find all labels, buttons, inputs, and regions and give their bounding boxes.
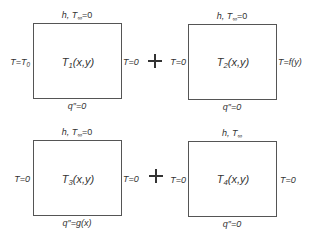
right-bc-text: T=f(y) — [278, 57, 302, 67]
left-bc-sub: 0 — [26, 61, 30, 68]
plus-operator-icon — [149, 169, 163, 183]
solution-args: (x,y) — [73, 56, 94, 68]
left-bc-prefix: T=T — [10, 57, 26, 67]
panel-t4-right-bc: T=0 — [280, 175, 296, 185]
panel-t3-bottom-bc: q″=g(x) — [63, 218, 92, 228]
panel-t3-right-bc: T=0 — [123, 174, 139, 184]
panel-t3-top-bc: h, T∞=0 — [62, 127, 92, 137]
right-bc-text: T=0 — [280, 175, 296, 185]
panel-t1-left-bc: T=T0 — [10, 57, 30, 67]
panel-t1-solution-label: T1(x,y) — [62, 56, 94, 68]
panel-t2-right-bc: T=f(y) — [278, 57, 302, 67]
top-bc-prefix: h, T — [62, 127, 78, 137]
panel-t3-solution-label: T3(x,y) — [62, 173, 94, 185]
panel-t2-bottom-bc: q″=0 — [223, 102, 241, 112]
right-bc-text: T=0 — [123, 57, 139, 67]
panel-t3-left-bc: T=0 — [14, 174, 30, 184]
top-bc-suffix: =0 — [82, 127, 92, 137]
bottom-bc-text: q″=g(x) — [63, 218, 92, 228]
solution-base: T — [62, 56, 69, 68]
panel-t2-left-bc: T=0 — [170, 57, 186, 67]
bottom-bc-text: q″=0 — [68, 101, 86, 111]
panel-t4-top-bc: h, T∞ — [222, 128, 242, 138]
plus-operator-icon — [148, 54, 162, 68]
top-bc-suffix: =0 — [82, 10, 92, 20]
solution-base: T — [62, 173, 69, 185]
top-bc-prefix: h, T — [217, 11, 233, 21]
panel-t2-top-bc: h, T∞=0 — [217, 11, 247, 21]
left-bc-text: T=0 — [170, 57, 186, 67]
solution-args: (x,y) — [228, 56, 249, 68]
left-bc-text: T=0 — [170, 175, 186, 185]
solution-args: (x,y) — [73, 173, 94, 185]
solution-base: T — [217, 56, 224, 68]
panel-t2-solution-label: T2(x,y) — [217, 56, 249, 68]
solution-base: T — [217, 173, 224, 185]
left-bc-text: T=0 — [14, 174, 30, 184]
top-bc-prefix: h, T — [62, 10, 78, 20]
panel-t1-right-bc: T=0 — [123, 57, 139, 67]
right-bc-text: T=0 — [123, 174, 139, 184]
panel-t1-bottom-bc: q″=0 — [68, 101, 86, 111]
bottom-bc-text: q″=0 — [223, 219, 241, 229]
panel-t4-solution-label: T4(x,y) — [217, 173, 249, 185]
panel-t1-top-bc: h, T∞=0 — [62, 10, 92, 20]
panel-t4-bottom-bc: q″=0 — [223, 219, 241, 229]
solution-args: (x,y) — [228, 173, 249, 185]
top-bc-sub: ∞ — [238, 132, 243, 139]
panel-t4-left-bc: T=0 — [170, 175, 186, 185]
top-bc-prefix: h, T — [222, 128, 238, 138]
bottom-bc-text: q″=0 — [223, 102, 241, 112]
top-bc-suffix: =0 — [237, 11, 247, 21]
